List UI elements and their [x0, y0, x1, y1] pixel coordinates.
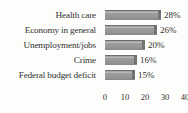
bar-value-label-crime: 16%: [140, 55, 157, 65]
bar-group-federal-budget-deficit: 15%: [105, 70, 155, 80]
bar-track: 16%: [100, 52, 188, 67]
bar-row: Health care 28%: [0, 7, 188, 22]
x-axis-tick-20: 20: [141, 92, 150, 102]
x-axis-tick-30: 30: [161, 92, 170, 102]
bar-health-care: [105, 10, 161, 20]
bar-track: 20%: [100, 37, 188, 52]
bar-value-label-federal-budget-deficit: 15%: [138, 70, 155, 80]
category-label-economy-in-general: Economy in general: [0, 25, 100, 35]
bar-row: Unemployment/jobs 20%: [0, 37, 188, 52]
bar-group-economy-in-general: 26%: [105, 25, 177, 35]
category-label-crime: Crime: [0, 55, 100, 65]
bar-track: 15%: [100, 67, 188, 82]
horizontal-bar-chart: Health care 28% Economy in general 26% U…: [0, 0, 188, 113]
bar-value-label-health-care: 28%: [164, 10, 181, 20]
bar-crime: [105, 55, 137, 65]
category-label-health-care: Health care: [0, 10, 100, 20]
x-axis-tick-0: 0: [103, 92, 107, 102]
bar-economy-in-general: [105, 25, 157, 35]
bar-track: 26%: [100, 22, 188, 37]
bar-value-label-unemployment-jobs: 20%: [148, 40, 165, 50]
bar-group-crime: 16%: [105, 55, 157, 65]
bar-track: 28%: [100, 7, 188, 22]
bar-group-health-care: 28%: [105, 10, 181, 20]
bar-value-label-economy-in-general: 26%: [160, 25, 177, 35]
bar-row: Crime 16%: [0, 52, 188, 67]
x-axis: 0 10 20 30 40: [100, 92, 188, 106]
category-label-federal-budget-deficit: Federal budget deficit: [0, 70, 100, 80]
bar-row: Federal budget deficit 15%: [0, 67, 188, 82]
chart-plot-area: Health care 28% Economy in general 26% U…: [0, 7, 188, 82]
x-axis-tick-40: 40: [181, 92, 188, 102]
category-label-unemployment-jobs: Unemployment/jobs: [0, 40, 100, 50]
bar-row: Economy in general 26%: [0, 22, 188, 37]
scan-bleed-strip: [0, 0, 188, 5]
bar-unemployment-jobs: [105, 40, 145, 50]
x-axis-tick-10: 10: [121, 92, 130, 102]
bar-group-unemployment-jobs: 20%: [105, 40, 165, 50]
bar-federal-budget-deficit: [105, 70, 135, 80]
